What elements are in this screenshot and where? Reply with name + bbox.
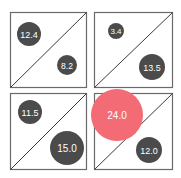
bubble: 8.2 [57, 55, 77, 75]
bubble: 3.4 [108, 23, 124, 39]
bubble-label: 12.4 [20, 30, 38, 40]
bubble: 15.0 [50, 131, 84, 165]
bubble-label: 11.5 [22, 108, 39, 118]
bubble-grid-chart: 12.48.23.413.511.515.024.012.0 [0, 0, 181, 178]
bubble: 12.4 [17, 22, 41, 46]
bubble-label: 12.0 [140, 146, 158, 156]
bubble: 13.5 [139, 54, 165, 80]
bubble-label: 3.4 [110, 27, 122, 36]
bubble: 24.0 [91, 89, 143, 141]
bubble: 11.5 [18, 100, 42, 124]
bubble-label: 24.0 [107, 110, 127, 121]
bubble-label: 8.2 [61, 61, 73, 71]
bubble-label: 15.0 [57, 143, 77, 154]
cell-top-left [11, 13, 87, 88]
bubble: 12.0 [136, 137, 162, 163]
bubble-label: 13.5 [143, 63, 161, 73]
